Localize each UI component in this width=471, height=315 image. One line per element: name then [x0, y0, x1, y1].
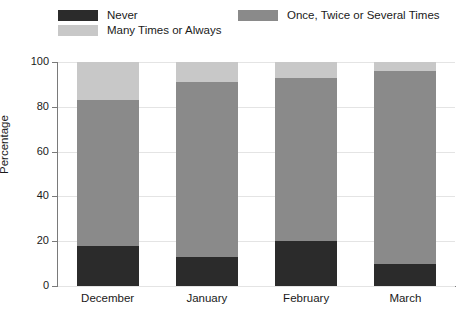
bar-segment — [77, 246, 139, 286]
bar-segment — [77, 62, 139, 100]
bar-march — [374, 62, 436, 286]
y-tick-label: 80 — [37, 101, 49, 112]
plot-area — [58, 62, 455, 286]
bar-january — [176, 62, 238, 286]
bar-segment — [374, 62, 436, 71]
y-tick-mark — [52, 241, 57, 242]
x-tick-label-december: December — [58, 292, 157, 304]
y-tick-label: 60 — [37, 146, 49, 157]
y-axis-title: Percentage — [0, 115, 10, 174]
y-tick-label: 100 — [31, 56, 49, 67]
x-tick-label-february: February — [257, 292, 356, 304]
bar-segment — [275, 62, 337, 78]
y-tick-label: 40 — [37, 190, 49, 201]
y-tick-mark — [52, 107, 57, 108]
y-tick-mark — [52, 152, 57, 153]
bar-segment — [77, 100, 139, 246]
bar-segment — [176, 257, 238, 286]
y-tick-label: 0 — [43, 280, 49, 291]
bar-segment — [176, 62, 238, 82]
x-tick-label-march: March — [356, 292, 455, 304]
bar-segment — [374, 71, 436, 264]
x-tick-label-january: January — [157, 292, 256, 304]
bar-segment — [374, 264, 436, 286]
bar-february — [275, 62, 337, 286]
y-tick-mark — [52, 286, 57, 287]
bar-december — [77, 62, 139, 286]
bar-segment — [176, 82, 238, 257]
y-tick-label: 20 — [37, 235, 49, 246]
y-tick-mark — [52, 62, 57, 63]
bar-segment — [275, 241, 337, 286]
stacked-bar-chart: Never Once, Twice or Several Times Many … — [0, 0, 471, 315]
gridline — [58, 286, 455, 287]
plot-region: Percentage 020406080100 DecemberJanuaryF… — [0, 0, 471, 315]
bar-segment — [275, 78, 337, 242]
y-tick-mark — [52, 196, 57, 197]
